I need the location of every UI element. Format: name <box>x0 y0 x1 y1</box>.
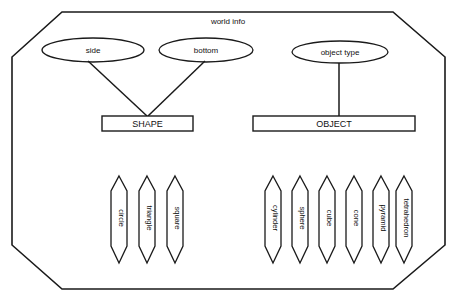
leaf-label-circle: circle <box>117 209 126 227</box>
diagram-canvas: world info side bottom object type SHAPE <box>0 0 456 305</box>
leaf-label-tetrahedron: tetrahedron <box>402 199 411 238</box>
leaf-node-square[interactable]: square <box>167 176 183 263</box>
leaf-node-sphere[interactable]: sphere <box>292 176 308 263</box>
world-info-diagram: world info side bottom object type SHAPE <box>0 0 456 305</box>
leaf-node-pyramid[interactable]: pyramid <box>373 176 389 263</box>
entity-label-object: OBJECT <box>316 119 352 129</box>
attribute-node-bottom[interactable]: bottom <box>159 38 253 62</box>
leaf-node-triangle[interactable]: triangle <box>139 176 155 263</box>
leaf-label-square: square <box>173 206 182 229</box>
entity-shape[interactable]: SHAPE <box>102 116 193 131</box>
leaf-label-triangle: triangle <box>145 206 154 231</box>
leaf-label-sphere: sphere <box>298 206 307 229</box>
attribute-label-side: side <box>86 46 101 55</box>
attribute-label-object-type: object type <box>321 48 360 57</box>
diagram-title: world info <box>210 17 246 26</box>
attribute-label-bottom: bottom <box>194 46 219 55</box>
entity-object[interactable]: OBJECT <box>253 116 415 131</box>
leaf-node-tetrahedron[interactable]: tetrahedron <box>396 176 412 263</box>
attribute-node-object-type[interactable]: object type <box>292 41 388 63</box>
leaf-label-cylinder: cylinder <box>271 205 280 232</box>
attribute-node-side[interactable]: side <box>42 38 144 62</box>
entity-label-shape: SHAPE <box>132 119 163 129</box>
leaf-node-cone[interactable]: cone <box>346 176 362 263</box>
leaf-node-circle[interactable]: circle <box>111 176 127 263</box>
leaf-label-cube: cube <box>325 210 334 226</box>
leaf-node-cube[interactable]: cube <box>319 176 335 263</box>
leaf-node-cylinder[interactable]: cylinder <box>265 176 281 263</box>
leaf-label-pyramid: pyramid <box>379 204 388 231</box>
leaf-label-cone: cone <box>352 210 361 226</box>
